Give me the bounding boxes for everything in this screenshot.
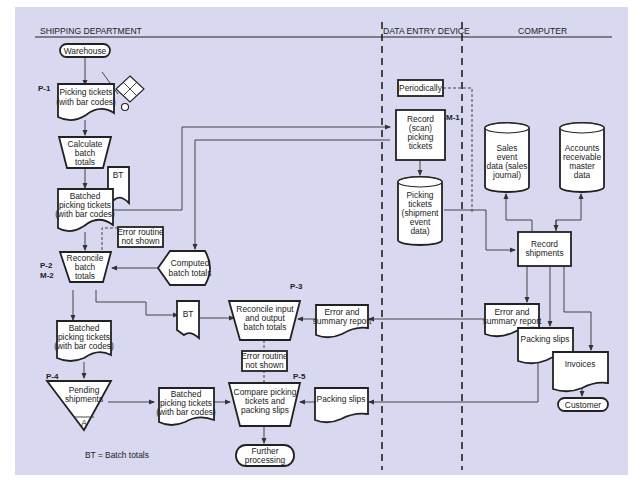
terminal-warehouse: Warehouse <box>60 44 110 57</box>
svg-text:Invoices: Invoices <box>565 359 596 369</box>
svg-text:shipments: shipments <box>525 248 563 258</box>
svg-text:shipments: shipments <box>65 394 103 404</box>
svg-text:A: A <box>81 418 87 428</box>
document-batched-picking-tickets-3: Batched picking tickets (with bar codes) <box>156 388 216 425</box>
svg-text:BT: BT <box>113 170 124 180</box>
legend-bt: BT = Batch totals <box>85 450 149 460</box>
database-picking-tickets: Picking tickets (shipment event data) <box>398 177 442 245</box>
svg-text:Packing slips: Packing slips <box>317 394 366 404</box>
document-bt-2: BT <box>177 301 199 338</box>
svg-text:batch totals: batch totals <box>244 322 287 332</box>
display-computed-batch-totals: Computed batch totals <box>158 251 211 285</box>
document-invoices: Invoices <box>553 352 608 391</box>
svg-text:(with bar codes): (with bar codes) <box>156 407 216 417</box>
document-batched-picking-tickets-2: Batched picking tickets (with bar codes) <box>54 321 114 361</box>
lane-computer: COMPUTER <box>518 26 567 36</box>
svg-text:Periodically: Periodically <box>399 83 443 93</box>
svg-text:Customer: Customer <box>565 400 602 410</box>
svg-text:tickets: tickets <box>409 141 433 151</box>
manual-op-reconcile-batch-totals: Reconcile batch totals <box>60 252 111 282</box>
document-batched-picking-tickets-1: Batched picking tickets (with bar codes) <box>55 189 115 231</box>
svg-text:summary report: summary report <box>483 316 542 326</box>
file-pending-shipments: Pending shipments A <box>47 381 111 430</box>
lane-shipping-department: SHIPPING DEPARTMENT <box>40 26 143 36</box>
label-p3: P-3 <box>290 282 303 291</box>
flowchart: SHIPPING DEPARTMENT DATA ENTRY DEVICE CO… <box>0 0 640 494</box>
svg-text:not shown: not shown <box>245 360 284 370</box>
svg-text:totals: totals <box>75 157 95 167</box>
svg-text:Computed: Computed <box>171 258 210 268</box>
lane-data-entry-device: DATA ENTRY DEVICE <box>383 26 470 36</box>
manual-op-reconcile-io-totals: Reconcile input and output batch totals <box>229 301 300 340</box>
label-p4: P-4 <box>46 372 59 381</box>
document-packing-slips-1: Packing slips <box>315 388 368 422</box>
manual-op-compare-picking-packing: Compare picking tickets and packing slip… <box>229 383 300 426</box>
svg-text:BT: BT <box>183 309 194 319</box>
svg-text:data: data <box>574 170 591 180</box>
label-p5: P-5 <box>293 372 306 381</box>
svg-text:data): data) <box>410 226 429 236</box>
svg-text:journal): journal) <box>492 170 521 180</box>
svg-text:(with bar codes): (with bar codes) <box>55 209 115 219</box>
process-record-shipments: Record shipments <box>518 232 571 266</box>
svg-text:Picking tickets: Picking tickets <box>59 87 112 97</box>
svg-text:Warehouse: Warehouse <box>64 46 107 56</box>
svg-text:totals: totals <box>75 271 95 281</box>
annotation-error-routine-2: Error routine not shown <box>241 351 288 371</box>
label-p1: P-1 <box>38 84 51 93</box>
svg-text:processing: processing <box>245 455 286 465</box>
terminal-further-processing: Further processing <box>236 445 294 466</box>
svg-text:(with bar codes): (with bar codes) <box>56 97 116 107</box>
svg-text:Packing slips: Packing slips <box>521 334 570 344</box>
document-error-summary-1: Error and summary report <box>313 305 372 337</box>
label-p2: P-2 <box>40 261 53 270</box>
terminal-customer: Customer <box>558 398 608 411</box>
label-m2: M-2 <box>40 271 54 280</box>
annotation-error-routine-1: Error routine not shown <box>117 227 164 247</box>
manual-op-calculate-batch-totals: Calculate batch totals <box>59 137 111 168</box>
database-sales-event-data: Sales event data (sales journal) <box>485 123 529 192</box>
database-accounts-receivable: Accounts receivable master data <box>560 123 604 192</box>
process-record-scan-picking-tickets: Record (scan) picking tickets <box>396 110 445 160</box>
svg-text:packing slips: packing slips <box>241 405 289 415</box>
svg-text:not shown: not shown <box>121 236 160 246</box>
label-m1: M-1 <box>446 113 460 122</box>
svg-text:batch totals: batch totals <box>169 268 212 278</box>
svg-text:summary report: summary report <box>313 316 372 326</box>
annotation-periodically: Periodically <box>398 80 443 96</box>
document-picking-tickets: Picking tickets (with bar codes) <box>56 84 116 120</box>
offline-file-icon <box>116 76 144 111</box>
svg-text:(with bar codes): (with bar codes) <box>54 341 114 351</box>
